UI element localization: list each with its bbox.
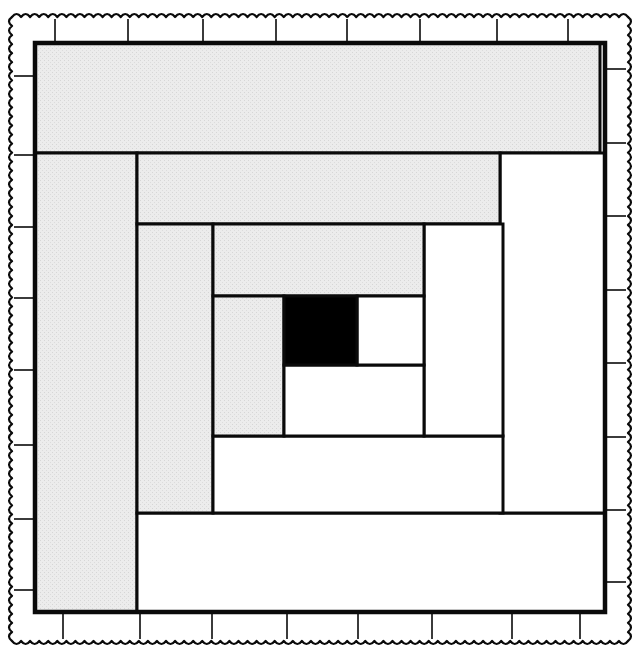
center-square [284,296,357,365]
log-7-bottom [213,436,503,513]
log-4-right [500,153,605,513]
log-2-left [35,153,137,612]
log-6-left [137,224,213,513]
log-5-top [137,153,500,224]
log-cabin-quilt-diagram: Log Cabin quilt block [0,0,643,653]
log-10-left [213,296,284,436]
log-11-bottom [284,365,424,436]
log-12-right [357,296,424,365]
quilt-pieces [35,43,605,612]
log-8-right [424,224,503,436]
log-3-bottom [137,513,605,612]
log-1-top [35,43,600,153]
log-9-top [213,224,424,296]
